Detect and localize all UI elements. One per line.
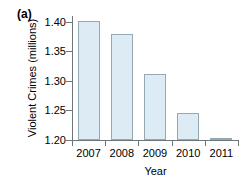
- x-axis-tick-label-2011: 2011: [203, 147, 239, 159]
- y-axis-tick: [66, 22, 72, 23]
- bar-2011: [210, 138, 232, 140]
- x-axis-line: [72, 140, 239, 141]
- bar-2010: [177, 113, 199, 140]
- x-axis-tick: [105, 141, 106, 146]
- x-axis-tick: [172, 141, 173, 146]
- y-axis-tick: [66, 51, 72, 52]
- bar-2007: [78, 21, 100, 140]
- bar-2009: [144, 74, 166, 140]
- y-axis-tick-label: 1.35: [30, 46, 66, 57]
- y-axis-tick-labels: 1.401.351.301.251.20: [26, 0, 66, 192]
- x-axis-tick: [205, 141, 206, 146]
- x-axis-title: Year: [72, 165, 239, 177]
- x-axis-tick-label-2009: 2009: [137, 147, 173, 159]
- y-axis-tick-label: 1.40: [30, 17, 66, 28]
- y-axis-tick-label: 1.25: [30, 105, 66, 116]
- y-axis-tick-label: 1.20: [30, 135, 66, 146]
- y-axis-tick: [66, 81, 72, 82]
- x-axis-tick-label-2007: 2007: [71, 147, 107, 159]
- y-axis-tick-label: 1.30: [30, 76, 66, 87]
- plot-area: [72, 16, 238, 140]
- x-axis-tick: [72, 141, 73, 146]
- bar-2008: [111, 34, 133, 140]
- x-axis-tick: [238, 141, 239, 146]
- x-axis-tick-label-2008: 2008: [104, 147, 140, 159]
- figure-panel-a: (a) Violent Crimes (millions) 1.401.351.…: [0, 0, 248, 192]
- x-axis-tick: [138, 141, 139, 146]
- x-axis-tick-label-2010: 2010: [170, 147, 206, 159]
- y-axis-tick: [66, 110, 72, 111]
